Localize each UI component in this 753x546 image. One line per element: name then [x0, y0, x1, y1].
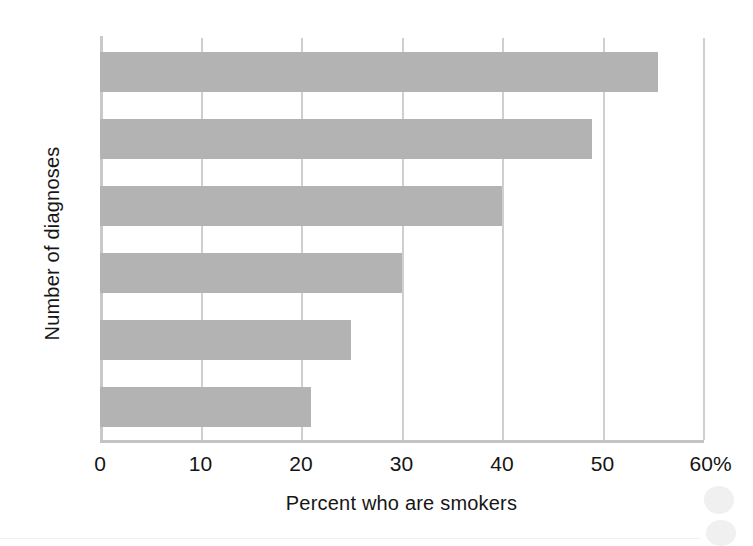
bar-3[interactable] [100, 186, 502, 226]
y-axis-title: Number of diagnoses [41, 84, 64, 404]
gridline-20 [301, 38, 303, 440]
bar-row[interactable]: 2 [100, 253, 703, 293]
bar->4[interactable] [100, 52, 658, 92]
x-tick-label-10: 10 [189, 452, 212, 476]
plot-area: >443210 [100, 38, 703, 440]
x-tick-label-60%: 60% [690, 452, 732, 476]
gridline-30 [402, 38, 404, 440]
bar-row[interactable]: 3 [100, 186, 703, 226]
x-axis-title: Percent who are smokers [100, 492, 703, 515]
gridline-10 [201, 38, 203, 440]
bar-row[interactable]: 1 [100, 320, 703, 360]
bar-0[interactable] [100, 387, 311, 427]
page-bottom-rule [0, 538, 700, 539]
gridline-60 [703, 38, 705, 440]
x-tick-label-20: 20 [289, 452, 312, 476]
x-tick-label-50: 50 [591, 452, 614, 476]
gridline-50 [603, 38, 605, 440]
bar-row[interactable]: 4 [100, 119, 703, 159]
gridline-40 [502, 38, 504, 440]
x-tick-label-30: 30 [390, 452, 413, 476]
bar-1[interactable] [100, 320, 351, 360]
bar-row[interactable]: 0 [100, 387, 703, 427]
scan-artifact-lower [706, 520, 736, 546]
bar-row[interactable]: >4 [100, 52, 703, 92]
x-axis-line [100, 440, 704, 443]
bar-4[interactable] [100, 119, 592, 159]
bar-2[interactable] [100, 253, 402, 293]
x-tick-label-40: 40 [490, 452, 513, 476]
x-tick-label-0: 0 [94, 452, 106, 476]
scan-artifact-upper [704, 486, 734, 514]
